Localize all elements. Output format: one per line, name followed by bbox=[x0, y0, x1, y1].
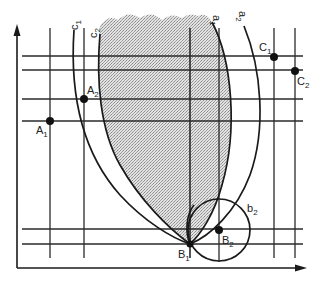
point-A1 bbox=[46, 117, 54, 125]
label-C1: C1 bbox=[259, 41, 272, 56]
geometric-diagram: A1 A2 B1 B2 C1 C2 b2 c1 c2 a1 a2 bbox=[0, 0, 323, 283]
label-c1: c1 bbox=[68, 20, 83, 31]
point-C2 bbox=[291, 67, 299, 75]
label-a2: a2 bbox=[234, 11, 249, 22]
point-B1 bbox=[187, 241, 194, 248]
x-axis-arrow-icon bbox=[295, 265, 307, 272]
label-a1: a1 bbox=[208, 15, 223, 26]
point-B2 bbox=[215, 226, 223, 234]
shaded-region bbox=[98, 14, 231, 244]
label-C2: C2 bbox=[297, 75, 310, 90]
label-A1: A1 bbox=[36, 124, 48, 139]
label-A2: A2 bbox=[87, 84, 99, 99]
y-axis-arrow-icon bbox=[14, 24, 21, 36]
label-b2: b2 bbox=[247, 202, 258, 217]
point-A2 bbox=[80, 95, 88, 103]
label-B1: B1 bbox=[178, 248, 190, 263]
label-B2: B2 bbox=[222, 234, 234, 249]
